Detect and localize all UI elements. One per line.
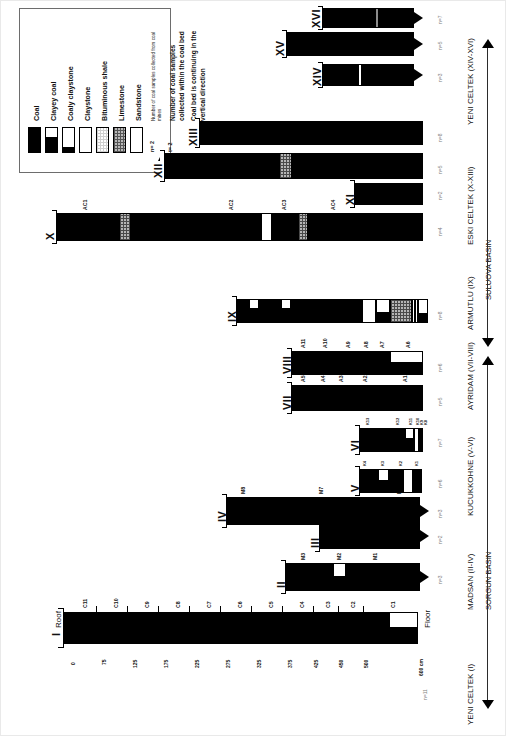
- column-XV-segment-coal: [287, 32, 414, 56]
- suluova-basin-arrow-up-icon: [482, 39, 494, 48]
- sample-label-AC3: AC3: [281, 200, 287, 210]
- column-IX-n: n=8: [437, 312, 443, 320]
- depth-label-600: 600 cm: [418, 659, 424, 676]
- column-IX-segment-coal-1: [237, 299, 249, 323]
- legend-swatch-sandstone: [130, 127, 143, 153]
- column-VI-n: n=7: [437, 439, 443, 447]
- sample-label-K4: K4: [362, 461, 367, 466]
- sample-label-C11: C11: [82, 599, 88, 608]
- column-XV-continuation-arrow-icon: [414, 38, 423, 50]
- depth-label-75: 75: [101, 659, 107, 665]
- legend-label-coaly-claystone: Coaly claystone: [66, 66, 75, 121]
- column-VIII-segment-claystone: [390, 351, 423, 363]
- column-IV-continuation-arrow-icon: [420, 505, 429, 517]
- column-X-segment-limestone-1: [119, 213, 131, 241]
- scale-tick: [282, 606, 283, 612]
- column-I-segment-claystone: [389, 612, 418, 628]
- column-XVI-segment-coal-1: [323, 8, 375, 28]
- column-X-segment-coal-3: [272, 213, 298, 241]
- column-X-segment-limestone-2: [298, 213, 308, 241]
- sample-label-C3: C3: [325, 601, 331, 608]
- column-VIII-segment-coal-1: [292, 351, 390, 375]
- sample-label-M1: M1: [372, 553, 378, 560]
- mine-label-kucukkohne: KUCUKKOHNE (V-VI): [466, 437, 475, 516]
- sample-label-A10: A10: [322, 338, 328, 348]
- legend-label-limestone: Limestone: [117, 85, 126, 121]
- column-V-segment-coal-4: [413, 469, 422, 493]
- scale-tick: [220, 606, 221, 612]
- column-XI-segment-coal: [355, 183, 423, 205]
- sample-label-C10: C10: [113, 598, 119, 608]
- depth-label-450: 450: [338, 660, 344, 668]
- column-XII-segment-limestone: [279, 153, 292, 179]
- legend-swatch-coal: [28, 127, 41, 153]
- column-IX-segment-claystone-1: [249, 299, 259, 309]
- legend-label-sandstone: Sandstone: [134, 84, 143, 121]
- legend-text-arrow: Coal bed is continuing in the vertical d…: [190, 26, 207, 121]
- scale-tick: [96, 606, 97, 612]
- column-XIII-segment-coal: [200, 121, 423, 145]
- legend-label-coal: Coal: [32, 105, 41, 121]
- legend-mark-t: t= 2: [167, 143, 173, 152]
- column-V-segment-coal-2: [378, 481, 389, 493]
- column-XII-segment-coal-2: [292, 153, 423, 179]
- column-II-n: n=3: [437, 576, 443, 584]
- sample-label-A5: A5: [300, 375, 306, 382]
- column-XIV-roman: XIV: [311, 67, 323, 86]
- legend-swatch-clayey-coal: [45, 127, 58, 153]
- column-XVI-continuation-arrow-icon: [414, 12, 423, 24]
- column-X-segment-coal-2: [131, 213, 261, 241]
- sample-label-M8: M8: [240, 487, 246, 494]
- sample-label-M2: M2: [336, 553, 342, 560]
- sample-label-C6: C6: [237, 601, 243, 608]
- column-VI-segment-claystone-1: [405, 428, 414, 439]
- legend-text-t: Number of coal samples collected within …: [169, 26, 186, 121]
- column-XII-n: n=5: [437, 166, 443, 174]
- column-IX-segment-coal-6: [376, 313, 390, 323]
- column-IX-segment-claystone-4: [376, 299, 390, 313]
- sample-label-AC1: AC1: [82, 200, 88, 210]
- legend-swatch-coaly-claystone: [62, 127, 75, 153]
- column-IX-segment-coal-7: [418, 314, 428, 323]
- column-II-segment-claystone: [333, 563, 346, 577]
- sample-label-K12: K12: [395, 418, 400, 425]
- sample-label-A6: A6: [405, 341, 411, 348]
- sample-label-C4: C4: [299, 601, 305, 608]
- depth-label-425: 425: [313, 660, 319, 668]
- sample-label-A2: A2: [362, 375, 368, 382]
- sample-label-C7: C7: [206, 601, 212, 608]
- sample-label-C2: C2: [350, 601, 356, 608]
- sample-label-K2: K2: [398, 461, 403, 466]
- sample-label-C5: C5: [268, 601, 274, 608]
- column-IX-segment-coal-2: [249, 309, 259, 323]
- column-I-segment-coal: [64, 612, 389, 644]
- mine-label-ayridam: AYRIDAM (VII-VIII): [466, 342, 475, 410]
- scale-tick: [338, 606, 339, 612]
- column-XVI-segment-coal-2: [379, 8, 414, 28]
- sample-label-C1: C1: [390, 601, 396, 608]
- column-V-segment-claystone-1: [378, 469, 389, 481]
- column-III-n: n=2: [437, 536, 443, 544]
- sample-label-A3: A3: [338, 375, 344, 382]
- mine-label-yeni-celtek-1: YENI CELTEK (I): [466, 664, 475, 725]
- depth-label-325: 325: [256, 660, 262, 668]
- sample-label-M7: M7: [318, 487, 324, 494]
- legend-swatch-limestone: [113, 127, 126, 153]
- column-II-continuation-arrow-icon: [420, 571, 429, 583]
- legend-text-n: Number of coal samples collected from co…: [151, 26, 162, 121]
- column-V-segment-coal-3: [389, 469, 403, 493]
- column-X-roman: X: [44, 232, 56, 240]
- column-V-n: n=6: [437, 480, 443, 488]
- column-VI-segment-coal-2: [405, 439, 414, 452]
- mine-label-yeni-celtek-2: YENI CELTEK (XIV-XVI): [466, 38, 475, 125]
- depth-label-275: 275: [225, 660, 231, 668]
- column-IX-segment-sandstone: [418, 299, 428, 314]
- column-X-segment-coal-1: [57, 213, 119, 241]
- depth-label-225: 225: [194, 660, 200, 668]
- scale-tick: [363, 606, 364, 612]
- sample-label-A7: A7: [379, 341, 385, 348]
- column-I-segment-coal-lower: [389, 628, 418, 644]
- sample-label-AC2: AC2: [228, 200, 234, 210]
- sample-label-K8: K8: [423, 420, 428, 425]
- mine-label-madsan: MADSAN (II-IV): [466, 554, 475, 610]
